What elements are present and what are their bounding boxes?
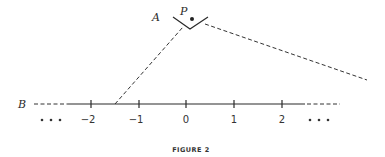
figure-caption: FIGURE 2 (172, 146, 210, 154)
tick-label-1: 1 (231, 114, 237, 125)
label-p: P (179, 5, 188, 18)
left-dashed-ray (115, 27, 183, 104)
tick-label-0: 0 (183, 114, 189, 125)
right-dashed-ray (205, 24, 367, 80)
label-b: B (17, 98, 26, 111)
ellipsis-left (41, 119, 62, 122)
point-p (190, 17, 194, 21)
figure-diagram: −2 −1 0 1 2 B A P FIGURE 2 (0, 0, 385, 157)
tick-label-2: 2 (279, 114, 285, 125)
number-line-b: −2 −1 0 1 2 B (17, 98, 340, 125)
ellipsis-right (309, 119, 330, 122)
tick-label-minus-2: −2 (81, 114, 96, 125)
tick-label-minus-1: −1 (129, 114, 144, 125)
label-a: A (151, 11, 160, 24)
